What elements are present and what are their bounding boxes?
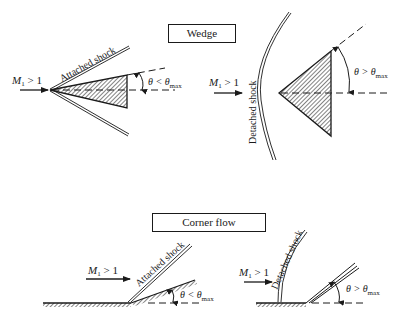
wedge-section-title: Wedge — [168, 24, 236, 43]
detached-shock-line — [257, 12, 291, 160]
corner-flow-section-title: Corner flow — [152, 213, 266, 232]
wedge-attached-panel: M1 > 1 Attached shock θ < θmax — [11, 44, 182, 136]
mach-label: M1 > 1 — [238, 266, 269, 280]
angle-arc — [334, 282, 339, 302]
theta-label: θ < θmax — [148, 76, 182, 90]
mach-label: M1 > 1 — [208, 76, 239, 90]
theta-label: θ > θmax — [354, 66, 388, 80]
shock-label: Attached shock — [133, 239, 186, 289]
wall-hatch — [43, 303, 131, 307]
theta-label: θ > θmax — [346, 283, 380, 297]
wedge-surface-extension — [331, 24, 366, 51]
shock-label: Detached shock — [247, 80, 258, 144]
shock-label: Detached shock — [269, 228, 305, 291]
angle-arc — [338, 47, 350, 92]
wedge-surface-extension — [127, 68, 165, 75]
mach-label: M1 > 1 — [87, 264, 118, 278]
mach-label: M1 > 1 — [11, 74, 42, 88]
shock-label: Attached shock — [58, 44, 118, 84]
wall-hatch — [256, 303, 306, 307]
angle-arc — [139, 73, 143, 90]
corner-detached-panel: M1 > 1 Detached shock θ > θmax — [238, 228, 380, 307]
corner-attached-panel: M1 > 1 Attached shock θ < θmax — [43, 239, 214, 307]
theta-label: θ < θmax — [180, 289, 214, 303]
shock-diagram: M1 > 1 Attached shock θ < θmax M1 > 1 De… — [0, 0, 402, 322]
